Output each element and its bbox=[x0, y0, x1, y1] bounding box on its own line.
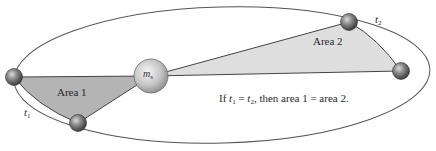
caption-eq: = bbox=[236, 92, 248, 104]
caption-suffix: , then area 1 = area 2. bbox=[254, 92, 349, 104]
orbit-graphic bbox=[0, 0, 436, 151]
area-2-label: Area 2 bbox=[313, 36, 343, 47]
sun-mass-label: ms bbox=[143, 69, 153, 81]
planet-position-2a bbox=[341, 14, 358, 31]
t1-sub: 1 bbox=[27, 112, 31, 120]
area-2-region bbox=[151, 22, 401, 76]
planet-position-2b bbox=[393, 63, 410, 80]
kepler-diagram: Area 1 Area 2 t1 t2 ms If t1 = t2, then … bbox=[0, 0, 436, 151]
area-1-label: Area 1 bbox=[57, 87, 87, 98]
t2-label: t2 bbox=[375, 14, 382, 27]
t1-label: t1 bbox=[24, 107, 31, 120]
equal-areas-caption: If t1 = t2, then area 1 = area 2. bbox=[219, 93, 349, 106]
t2-sub: 2 bbox=[378, 19, 382, 27]
planet-position-1a bbox=[6, 69, 23, 86]
planet-position-1b bbox=[70, 115, 87, 132]
sun-sub: s bbox=[150, 73, 153, 81]
caption-prefix: If bbox=[219, 92, 229, 104]
